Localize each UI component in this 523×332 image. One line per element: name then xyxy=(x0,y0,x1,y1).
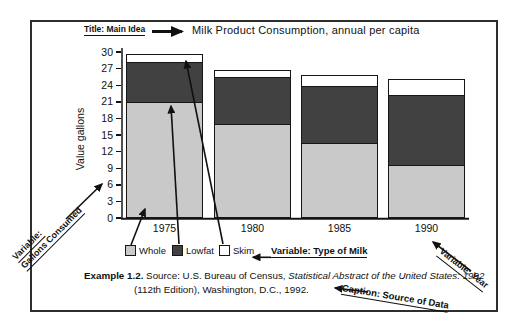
bar-1985 xyxy=(301,75,378,218)
caption-italic-title: Statistical Abstract of the United State… xyxy=(288,270,484,281)
y-tick-mark xyxy=(116,85,121,86)
legend-item-lowfat: Lowfat xyxy=(172,245,214,256)
legend-label-whole: Whole xyxy=(139,245,166,256)
title-pointer-label: Title: Main Idea xyxy=(84,24,145,36)
y-tick-label: 6 xyxy=(87,178,113,190)
segment-whole-1980 xyxy=(215,124,290,217)
segment-lowfat-1980 xyxy=(215,77,290,124)
y-tick-mark xyxy=(116,68,121,69)
y-tick-mark xyxy=(116,151,121,152)
y-axis-title: Value gallons xyxy=(74,108,86,170)
y-tick-mark xyxy=(116,201,121,202)
source-caption-line1: Example 1.2. Source: U.S. Bureau of Cens… xyxy=(84,270,484,281)
segment-skim-1990 xyxy=(389,80,464,95)
y-tick-label: 9 xyxy=(87,162,113,174)
source-caption-line2: (112th Edition), Washington, D.C., 1992. xyxy=(134,284,309,295)
y-tick-label: 0 xyxy=(87,212,113,224)
y-tick-mark xyxy=(116,134,121,135)
bar-1975 xyxy=(126,54,203,218)
legend-label-lowfat: Lowfat xyxy=(186,245,214,256)
y-tick-mark xyxy=(116,118,121,119)
y-tick-label: 3 xyxy=(87,195,113,207)
y-tick-label: 12 xyxy=(87,145,113,157)
y-tick-mark xyxy=(116,101,121,102)
y-tick-mark xyxy=(116,217,121,218)
segment-whole-1990 xyxy=(389,165,464,217)
legend-label-skim: Skim xyxy=(233,245,254,256)
y-tick-label: 15 xyxy=(87,129,113,141)
bar-1980 xyxy=(214,70,291,218)
segment-lowfat-1985 xyxy=(302,86,377,144)
y-tick-mark xyxy=(116,51,121,52)
segment-lowfat-1990 xyxy=(389,95,464,165)
type-of-milk-pointer-label: Variable: Type of Milk xyxy=(271,245,367,258)
segment-lowfat-1975 xyxy=(127,62,202,102)
segment-skim-1975 xyxy=(127,55,202,62)
y-tick-label: 30 xyxy=(87,46,113,58)
x-tick-label-1985: 1985 xyxy=(310,222,370,234)
y-tick-label: 27 xyxy=(87,62,113,74)
bar-1990 xyxy=(388,79,465,218)
y-tick-mark xyxy=(116,184,121,185)
caption-example-label: Example 1.2. xyxy=(84,270,143,281)
legend-item-skim: Skim xyxy=(219,245,254,256)
segment-whole-1985 xyxy=(302,143,377,217)
figure-canvas: Title: Main Idea Milk Product Consumptio… xyxy=(0,0,523,332)
y-tick-label: 18 xyxy=(87,112,113,124)
caption-source-text: Source: U.S. Bureau of Census, xyxy=(143,270,288,281)
legend-item-whole: Whole xyxy=(125,245,166,256)
x-tick-label-1975: 1975 xyxy=(135,222,195,234)
segment-whole-1975 xyxy=(127,102,202,217)
skim-swatch-icon xyxy=(219,245,230,256)
chart-title: Milk Product Consumption, annual per cap… xyxy=(192,24,420,36)
whole-swatch-icon xyxy=(125,245,136,256)
y-tick-label: 24 xyxy=(87,79,113,91)
lowfat-swatch-icon xyxy=(172,245,183,256)
y-tick-label: 21 xyxy=(87,95,113,107)
y-tick-mark xyxy=(116,168,121,169)
segment-skim-1985 xyxy=(302,76,377,86)
x-tick-label-1990: 1990 xyxy=(397,222,457,234)
x-tick-label-1980: 1980 xyxy=(223,222,283,234)
